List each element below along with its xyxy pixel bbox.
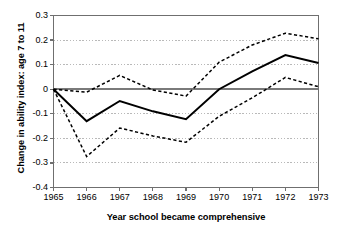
chart-container: Change in ability index: age 7 to 11 0.3… xyxy=(0,0,343,235)
x-tick-label: 1973 xyxy=(299,192,339,203)
x-axis-tick-labels: 196519661967196819691970197119721973 xyxy=(0,0,343,235)
x-axis-title: Year school became comprehensive xyxy=(53,212,319,222)
